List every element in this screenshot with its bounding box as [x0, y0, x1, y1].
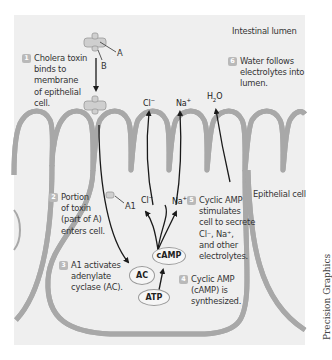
step-3: 3 A1 activates adenylate cyclase (AC).: [59, 260, 131, 294]
water-label: H2O: [207, 92, 222, 103]
step-4: 4 Cyclic AMP (cAMP) is synthesized.: [179, 274, 251, 308]
chloride-ion-mid: Cl−: [141, 194, 153, 205]
sodium-ion-top: Na+: [176, 97, 191, 108]
a1-label: A1: [125, 201, 136, 212]
lumen-label: Intestinal lumen: [232, 26, 297, 37]
atp-molecule: ATP: [138, 289, 170, 306]
step-5: 5 Cyclic AMP stimulates cell to secrete …: [187, 195, 267, 262]
step-2: 2 Portion of toxin (part of A) enters ce…: [49, 192, 119, 237]
step-1: 1 Cholera toxin binds to membrane of epi…: [22, 53, 112, 109]
camp-molecule: cAMP: [152, 247, 186, 265]
image-credit: Precision Graphics: [322, 254, 332, 340]
step-6: 6 Water follows electrolytes into lumen.: [228, 56, 318, 90]
step-6-badge: 6: [228, 57, 237, 66]
step-3-badge: 3: [59, 261, 68, 270]
step-4-badge: 4: [179, 275, 188, 284]
step-5-badge: 5: [187, 196, 196, 205]
step-1-badge: 1: [22, 54, 31, 63]
step-2-badge: 2: [49, 193, 58, 202]
adenylate-cyclase-molecule: AC: [129, 266, 155, 285]
subunit-a-label: A: [117, 48, 123, 59]
chloride-ion-top: Cl−: [143, 97, 155, 108]
sodium-ion-mid: Na+: [172, 195, 187, 206]
microvilli-membrane: [14, 111, 305, 175]
